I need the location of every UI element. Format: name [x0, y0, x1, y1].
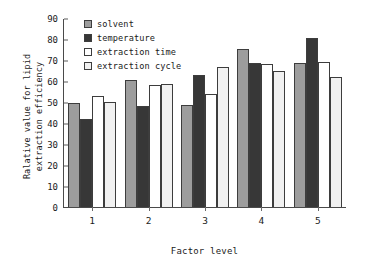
- y-axis-tick-mark: [64, 82, 68, 83]
- bar-solvent-level-2: [125, 80, 137, 207]
- bar-extraction-cycle-level-3: [217, 67, 229, 207]
- legend-item: temperature: [84, 31, 181, 45]
- y-axis-tick-label: 10: [47, 183, 64, 192]
- legend-swatch-icon: [84, 48, 92, 56]
- y-axis-tick-mark: [64, 145, 68, 146]
- bar-solvent-level-3: [181, 105, 193, 207]
- legend-swatch-icon: [84, 62, 92, 70]
- legend-item: solvent: [84, 17, 181, 31]
- bar-extraction-cycle-level-4: [273, 71, 285, 207]
- bar-extraction-cycle-level-5: [330, 77, 342, 207]
- legend-item: extraction time: [84, 45, 181, 59]
- legend-item-label: temperature: [97, 33, 155, 43]
- x-axis-tick-mark: [92, 207, 93, 211]
- y-axis-tick-mark: [64, 187, 68, 188]
- bar-solvent-level-4: [237, 49, 249, 207]
- y-axis-tick-label: 30: [47, 141, 64, 150]
- y-axis-tick-label: 50: [47, 99, 64, 108]
- y-axis-tick-label: 40: [47, 120, 64, 129]
- bar-temperature-level-4: [249, 63, 261, 207]
- y-axis-tick-label: 80: [47, 36, 64, 45]
- y-axis-tick-label: 90: [47, 15, 64, 24]
- x-axis-tick-label: 1: [89, 216, 95, 226]
- y-axis-tick-mark: [64, 103, 68, 104]
- bar-extraction-time-level-4: [261, 64, 273, 207]
- y-axis-tick-label: 20: [47, 162, 64, 171]
- legend-item-label: extraction cycle: [97, 61, 181, 71]
- y-axis-tick-label: 70: [47, 57, 64, 66]
- y-axis-tick-label: 60: [47, 78, 64, 87]
- bar-temperature-level-1: [80, 119, 92, 207]
- y-axis-tick-mark: [64, 40, 68, 41]
- bar-extraction-cycle-level-1: [104, 102, 116, 207]
- y-axis-title: Ralative value for lipid extraction effi…: [22, 22, 45, 212]
- legend-swatch-icon: [84, 34, 92, 42]
- bar-extraction-time-level-2: [149, 85, 161, 207]
- bar-temperature-level-2: [137, 106, 149, 207]
- bar-temperature-level-5: [306, 38, 318, 207]
- x-axis-tick-label: 3: [202, 216, 208, 226]
- bar-extraction-time-level-1: [92, 96, 104, 207]
- bar-solvent-level-1: [68, 103, 80, 207]
- x-axis-title: Factor level: [63, 246, 346, 257]
- x-axis-tick-mark: [318, 207, 319, 211]
- y-axis-tick-mark: [64, 61, 68, 62]
- x-axis-tick-label: 2: [146, 216, 152, 226]
- bar-group: 3: [177, 19, 233, 207]
- legend-item-label: solvent: [97, 19, 134, 29]
- bar-group: 5: [290, 19, 346, 207]
- legend-item: extraction cycle: [84, 59, 181, 73]
- bar-extraction-cycle-level-2: [161, 84, 173, 207]
- y-axis-tick-mark: [64, 19, 68, 20]
- x-axis-tick-mark: [205, 207, 206, 211]
- bar-temperature-level-3: [193, 75, 205, 207]
- chart-legend: solventtemperatureextraction timeextract…: [84, 17, 181, 73]
- bar-solvent-level-5: [294, 63, 306, 207]
- bar-extraction-time-level-5: [318, 62, 330, 207]
- y-axis-tick-mark: [64, 166, 68, 167]
- y-axis-tick-mark: [64, 124, 68, 125]
- bar-chart-figure: Ralative value for lipid extraction effi…: [0, 0, 366, 276]
- bar-extraction-time-level-3: [205, 94, 217, 207]
- bar-group: 4: [233, 19, 289, 207]
- x-axis-tick-label: 4: [259, 216, 265, 226]
- x-axis-tick-mark: [149, 207, 150, 211]
- x-axis-tick-mark: [261, 207, 262, 211]
- legend-item-label: extraction time: [97, 47, 176, 57]
- x-axis-tick-label: 5: [315, 216, 321, 226]
- legend-swatch-icon: [84, 20, 92, 28]
- y-axis-tick-label: 0: [53, 204, 64, 213]
